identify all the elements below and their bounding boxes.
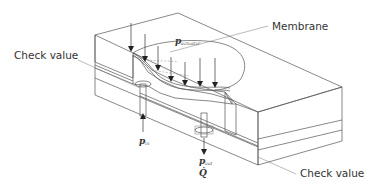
flow-rate-symbol: Q̇: [199, 167, 207, 178]
block-cross-section: [95, 35, 258, 165]
layer-line-1: [258, 120, 342, 139]
block-right-face: [258, 87, 342, 165]
arrow-icon: [212, 58, 218, 88]
arrow-icon: [197, 58, 203, 87]
actuator-arrows: [128, 23, 218, 88]
layer-line-2: [258, 130, 342, 150]
p-actuator-subscript: actuator: [181, 41, 201, 46]
micropump-diagram: Check value Membrane Check value p actua…: [0, 0, 374, 189]
arrow-icon: [128, 23, 134, 52]
arrow-icon: [182, 62, 188, 86]
p-out-subscript: out: [205, 161, 213, 166]
membrane-leader: [170, 26, 268, 52]
membrane-label: Membrane: [272, 20, 328, 32]
p-in-subscript: in: [145, 141, 149, 146]
check-valve-outlet-label: Check value: [300, 167, 364, 179]
check-valve-inlet-label: Check value: [14, 49, 78, 61]
outlet-check-valve: [195, 113, 213, 137]
arrow-icon: [155, 46, 161, 71]
